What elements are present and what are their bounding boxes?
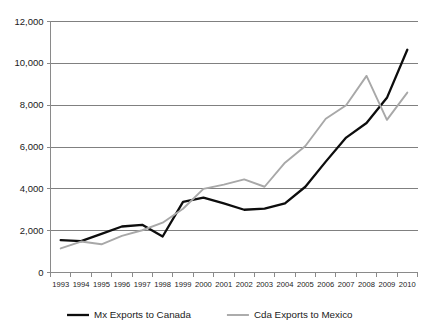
x-tick-label: 2002	[236, 280, 253, 289]
x-tick-label: 2009	[378, 280, 395, 289]
x-tick-label: 1994	[73, 280, 90, 289]
x-tick-label: 2001	[215, 280, 232, 289]
chart-legend: Mx Exports to CanadaCda Exports to Mexic…	[67, 309, 353, 320]
x-tick-label: 1997	[134, 280, 151, 289]
y-tick-label: 8,000	[20, 99, 44, 110]
x-tick-label: 2003	[256, 280, 273, 289]
x-tick-label: 1999	[175, 280, 192, 289]
series-line-cda-exports-to-mexico	[61, 76, 408, 249]
x-tick-label: 1998	[154, 280, 171, 289]
axis-ticks	[47, 22, 418, 277]
chart-canvas: 02,0004,0006,0008,00010,00012,000 199319…	[0, 0, 429, 332]
x-tick-label: 2008	[358, 280, 375, 289]
x-tick-label: 1995	[93, 280, 110, 289]
x-tick-label: 2006	[317, 280, 334, 289]
y-tick-label: 2,000	[20, 225, 44, 236]
x-axis-tick-labels: 1993199419951996199719981999200020012002…	[52, 280, 416, 289]
y-tick-label: 4,000	[20, 183, 44, 194]
x-tick-label: 1996	[113, 280, 130, 289]
y-axis-tick-labels: 02,0004,0006,0008,00010,00012,000	[14, 16, 43, 278]
x-tick-label: 2004	[277, 280, 294, 289]
data-series	[61, 50, 408, 249]
y-tick-label: 12,000	[14, 16, 43, 27]
y-tick-label: 10,000	[14, 57, 43, 68]
legend-label: Mx Exports to Canada	[94, 309, 191, 320]
legend-item: Mx Exports to Canada	[67, 309, 191, 320]
x-tick-label: 2005	[297, 280, 314, 289]
x-tick-label: 2010	[399, 280, 416, 289]
line-chart: 02,0004,0006,0008,00010,00012,000 199319…	[0, 0, 429, 332]
x-tick-label: 1993	[52, 280, 69, 289]
legend-label: Cda Exports to Mexico	[254, 309, 353, 320]
gridlines	[51, 22, 418, 273]
x-tick-label: 2007	[338, 280, 355, 289]
legend-item: Cda Exports to Mexico	[227, 309, 353, 320]
y-tick-label: 0	[38, 267, 43, 278]
series-line-mx-exports-to-canada	[61, 50, 408, 241]
y-tick-label: 6,000	[20, 141, 44, 152]
x-tick-label: 2000	[195, 280, 212, 289]
